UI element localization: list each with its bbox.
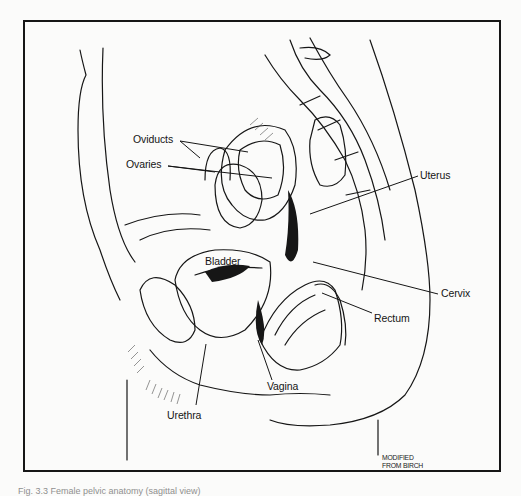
label-uterus: Uterus	[420, 169, 450, 181]
credit-line-1: MODIFIED	[382, 454, 423, 462]
label-ovaries: Ovaries	[126, 158, 161, 170]
credit-line-2: FROM BIRCH	[382, 462, 423, 470]
credit-note: MODIFIED FROM BIRCH	[382, 454, 423, 469]
label-oviducts: Oviducts	[133, 133, 173, 145]
figure-caption: Fig. 3.3 Female pelvic anatomy (sagittal…	[18, 486, 201, 496]
label-vagina: Vagina	[267, 380, 298, 392]
label-rectum: Rectum	[374, 312, 410, 324]
label-urethra: Urethra	[167, 409, 201, 421]
label-cervix: Cervix	[441, 287, 470, 299]
label-bladder: Bladder	[205, 255, 241, 267]
